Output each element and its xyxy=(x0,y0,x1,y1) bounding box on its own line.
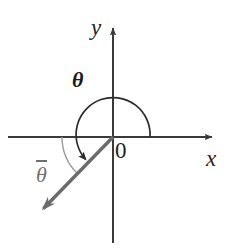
diagram-canvas xyxy=(0,0,231,248)
theta-bar-reference-angle-label: θ xyxy=(36,160,47,186)
x-axis-label: x xyxy=(206,147,216,170)
theta-bar-glyph: θ xyxy=(36,160,47,186)
reference-angle-arc xyxy=(62,137,77,173)
y-axis-label: y xyxy=(91,16,101,39)
theta-angle-label: θ xyxy=(72,69,83,91)
origin-label: 0 xyxy=(115,139,127,162)
angle-diagram-figure: y x 0 θ θ xyxy=(0,0,231,248)
